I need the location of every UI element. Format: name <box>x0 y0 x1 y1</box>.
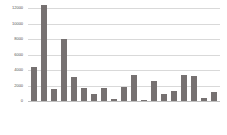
bar-slot <box>169 8 179 101</box>
bar-slot <box>29 8 39 101</box>
bar[interactable] <box>191 76 198 101</box>
bar[interactable] <box>151 81 158 101</box>
bar[interactable] <box>121 87 128 101</box>
x-axis-tick <box>139 101 149 135</box>
bar[interactable] <box>31 67 38 101</box>
bar[interactable] <box>211 92 218 101</box>
y-axis-tick-label: 12000 <box>12 6 23 10</box>
x-axis <box>28 101 220 135</box>
x-axis-tick <box>49 101 59 135</box>
bar-slot <box>149 8 159 101</box>
bar-slot <box>109 8 119 101</box>
bar[interactable] <box>71 77 78 101</box>
x-axis-tick <box>189 101 199 135</box>
bar[interactable] <box>51 89 58 101</box>
bar-slot <box>89 8 99 101</box>
x-axis-tick <box>89 101 99 135</box>
bar-slot <box>209 8 219 101</box>
bar-slot <box>49 8 59 101</box>
bar-slot <box>129 8 139 101</box>
x-axis-tick <box>39 101 49 135</box>
x-axis-tick <box>209 101 219 135</box>
x-axis-tick <box>59 101 69 135</box>
x-axis-tick <box>149 101 159 135</box>
plot-area <box>28 8 220 101</box>
bar-slot <box>39 8 49 101</box>
bar-chart: 020004000600080001000012000 <box>0 0 227 135</box>
bar-slot <box>189 8 199 101</box>
y-axis: 020004000600080001000012000 <box>0 8 26 101</box>
y-axis-tick-label: 4000 <box>14 68 23 72</box>
bar-slot <box>79 8 89 101</box>
x-axis-tick <box>99 101 109 135</box>
y-axis-tick-label: 10000 <box>12 21 23 25</box>
x-axis-tick <box>199 101 209 135</box>
bar[interactable] <box>161 94 168 101</box>
x-axis-tick <box>69 101 79 135</box>
bar-slot <box>179 8 189 101</box>
bar-slot <box>69 8 79 101</box>
bar[interactable] <box>181 75 188 101</box>
bar[interactable] <box>91 94 98 101</box>
x-axis-tick <box>119 101 129 135</box>
bar[interactable] <box>171 91 178 101</box>
y-axis-tick-label: 8000 <box>14 37 23 41</box>
bar-slot <box>99 8 109 101</box>
x-axis-tick <box>129 101 139 135</box>
y-axis-tick-label: 0 <box>21 99 23 103</box>
bar[interactable] <box>81 88 88 101</box>
bar[interactable] <box>101 88 108 101</box>
x-axis-tick <box>109 101 119 135</box>
bar-slot <box>199 8 209 101</box>
x-axis-tick <box>179 101 189 135</box>
bar-series <box>28 8 220 101</box>
bar[interactable] <box>131 75 138 101</box>
x-axis-tick <box>29 101 39 135</box>
bar[interactable] <box>61 39 68 101</box>
x-axis-tick <box>169 101 179 135</box>
y-axis-tick-label: 6000 <box>14 52 23 56</box>
bar-slot <box>59 8 69 101</box>
bar-slot <box>119 8 129 101</box>
y-axis-tick-label: 2000 <box>14 83 23 87</box>
bar-slot <box>139 8 149 101</box>
x-axis-tick <box>159 101 169 135</box>
bar-slot <box>159 8 169 101</box>
bar[interactable] <box>41 5 48 101</box>
x-axis-tick <box>79 101 89 135</box>
